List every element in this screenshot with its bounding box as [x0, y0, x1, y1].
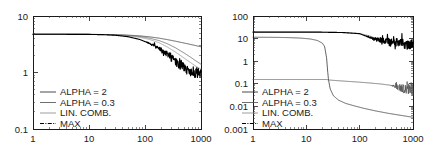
legend-label-1: ALPHA = 0.3 — [60, 97, 115, 108]
series-curve-alpha-2 — [33, 34, 201, 47]
legend-label-2: LIN. COMB. — [262, 107, 313, 118]
series-curve-max — [253, 32, 413, 49]
y-tick-label: 0.1 — [235, 78, 248, 89]
chart-svg-left: 11010010000.1110ALPHA = 2ALPHA = 0.3LIN.… — [0, 0, 212, 159]
series-curve-max — [33, 34, 201, 77]
y-tick-label: 0.001 — [224, 124, 248, 135]
legend-label-2: LIN. COMB. — [60, 107, 111, 118]
y-tick-label: 1 — [243, 56, 248, 67]
x-tick-label: 10 — [84, 133, 95, 144]
x-tick-label: 1000 — [190, 133, 211, 144]
legend-label-0: ALPHA = 2 — [60, 86, 107, 97]
x-tick-label: 1000 — [402, 133, 423, 144]
chart-panel-right: 11010010000.0010.010.1110100ALPHA = 2ALP… — [212, 0, 425, 159]
legend-label-3: MAX — [60, 118, 81, 129]
chart-legend: ALPHA = 2ALPHA = 0.3LIN. COMB.MAX — [40, 86, 115, 129]
legend-label-0: ALPHA = 2 — [262, 86, 309, 97]
x-tick-label: 1 — [30, 133, 35, 144]
y-tick-label: 10 — [17, 11, 28, 22]
plot-frame — [33, 16, 201, 129]
legend-label-3: MAX — [262, 118, 283, 129]
x-tick-label: 1 — [250, 133, 255, 144]
figure-root: 11010010000.1110ALPHA = 2ALPHA = 0.3LIN.… — [0, 0, 425, 159]
y-tick-label: 100 — [232, 11, 248, 22]
x-tick-label: 100 — [352, 133, 368, 144]
chart-panel-left: 11010010000.1110ALPHA = 2ALPHA = 0.3LIN.… — [0, 0, 212, 159]
x-tick-label: 10 — [301, 133, 312, 144]
chart-svg-right: 11010010000.0010.010.1110100ALPHA = 2ALP… — [212, 0, 425, 159]
y-tick-label: 0.1 — [15, 124, 28, 135]
y-tick-label: 10 — [237, 33, 248, 44]
legend-label-1: ALPHA = 0.3 — [262, 97, 317, 108]
y-tick-label: 1 — [23, 67, 28, 78]
x-tick-label: 100 — [137, 133, 153, 144]
